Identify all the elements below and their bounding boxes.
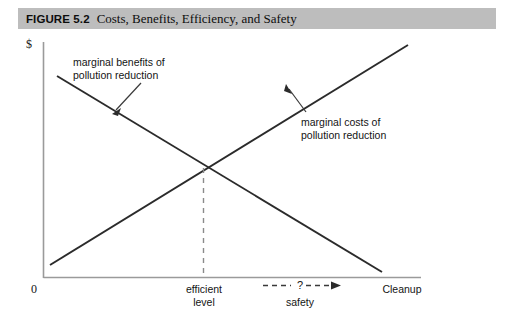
efficient-level-label-line2: level [168, 296, 240, 309]
x-axis-end-label: Cleanup [372, 283, 432, 296]
safety-label: safety [268, 296, 332, 309]
marginal-costs-annotation-line2: pollution reduction [301, 129, 386, 142]
y-axis-label: $ [26, 37, 32, 52]
efficient-level-label: efficient level [168, 283, 240, 309]
costs-arrowhead-icon [284, 84, 292, 94]
x-axis-origin-label: 0 [31, 282, 37, 297]
marginal-benefits-annotation: marginal benefits of pollution reduction [73, 56, 165, 82]
benefits-leader-line [116, 83, 141, 110]
marginal-benefits-line [57, 76, 382, 272]
marginal-costs-annotation-line1: marginal costs of [301, 116, 386, 129]
marginal-benefits-annotation-line2: pollution reduction [73, 69, 165, 82]
safety-arrowhead-icon [331, 282, 341, 290]
marginal-benefits-annotation-line1: marginal benefits of [73, 56, 165, 69]
chart-plot-area [0, 0, 516, 320]
figure-container: FIGURE 5.2 Costs, Benefits, Efficiency, … [0, 0, 516, 320]
costs-leader-line [289, 89, 306, 112]
marginal-costs-annotation: marginal costs of pollution reduction [301, 116, 386, 142]
efficient-level-label-line1: efficient [168, 283, 240, 296]
safety-question-mark: ? [294, 279, 306, 292]
